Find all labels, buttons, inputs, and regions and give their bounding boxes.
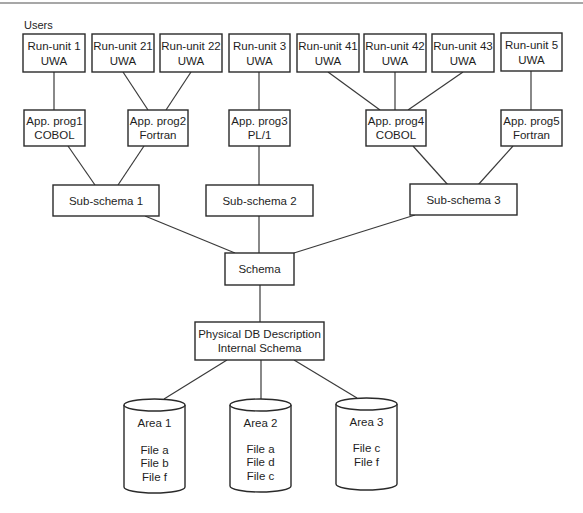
run-unit-label: Run-unit 21 bbox=[93, 40, 152, 52]
link-ap2-ss1 bbox=[118, 146, 144, 185]
area-label: Area 3 bbox=[350, 416, 384, 428]
app-prog-language: Fortran bbox=[139, 129, 176, 141]
run-unit-uwa: UWA bbox=[246, 55, 273, 67]
dbms-architecture-diagram: Users Run-unit 1 UWA Run-unit 21 UWA Run… bbox=[0, 0, 583, 513]
app-prog-label: App. prog3 bbox=[231, 115, 287, 127]
link-ss1-schema bbox=[145, 216, 235, 253]
run-unit-uwa: UWA bbox=[110, 55, 137, 67]
app-prog-label: App. prog5 bbox=[503, 115, 559, 127]
run-unit-label: Run-unit 41 bbox=[298, 40, 357, 52]
area-cylinder: Area 2 File a File d File c bbox=[230, 399, 291, 492]
app-prog-language: PL/1 bbox=[248, 129, 272, 141]
run-unit-box: Run-unit 21 UWA bbox=[92, 34, 154, 72]
run-unit-box: Run-unit 5 UWA bbox=[501, 33, 562, 71]
area-3-cylinder-top bbox=[336, 398, 397, 410]
sub-schema-box: Sub-schema 2 bbox=[206, 185, 313, 216]
run-unit-label: Run-unit 42 bbox=[365, 40, 424, 52]
run-unit-uwa: UWA bbox=[178, 55, 205, 67]
schema-box: Schema bbox=[225, 253, 294, 285]
run-unit-label: Run-unit 43 bbox=[433, 40, 492, 52]
run-unit-uwa: UWA bbox=[315, 55, 342, 67]
app-program-box: App. prog5 Fortran bbox=[501, 110, 562, 146]
run-unit-label: Run-unit 1 bbox=[27, 40, 80, 52]
run-unit-label: Run-unit 22 bbox=[161, 40, 220, 52]
link-ap4-ss3 bbox=[413, 146, 448, 185]
run-unit-label: Run-unit 3 bbox=[233, 40, 286, 52]
run-unit-uwa: UWA bbox=[518, 54, 545, 66]
link-ru22-ap2 bbox=[166, 72, 191, 110]
run-unit-uwa: UWA bbox=[41, 55, 68, 67]
area-file: File a bbox=[246, 443, 275, 455]
area-file: File c bbox=[353, 442, 381, 454]
app-prog-label: App. prog1 bbox=[26, 115, 82, 127]
app-program-box: App. prog3 PL/1 bbox=[229, 110, 290, 146]
link-ru41-ap4 bbox=[328, 72, 380, 110]
sub-schema-box: Sub-schema 1 bbox=[53, 185, 159, 216]
sub-schema-label: Sub-schema 3 bbox=[426, 194, 500, 206]
app-program-box: App. prog2 Fortran bbox=[128, 110, 188, 146]
area-file: File f bbox=[354, 456, 380, 468]
app-prog-language: COBOL bbox=[376, 129, 417, 141]
app-program-box: App. prog4 COBOL bbox=[366, 110, 426, 146]
run-unit-uwa: UWA bbox=[450, 55, 477, 67]
area-1-cylinder-top bbox=[124, 399, 185, 411]
area-file: File b bbox=[140, 457, 168, 469]
internal-schema-label: Internal Schema bbox=[218, 342, 302, 354]
link-physical-area1 bbox=[164, 360, 227, 399]
link-ru43-ap4 bbox=[408, 72, 463, 110]
sub-schema-label: Sub-schema 2 bbox=[222, 195, 296, 207]
area-2-cylinder-top bbox=[230, 399, 291, 411]
run-unit-box: Run-unit 3 UWA bbox=[229, 34, 290, 72]
app-program-box: App. prog1 COBOL bbox=[24, 110, 85, 146]
sub-schema-box: Sub-schema 3 bbox=[410, 184, 517, 215]
area-cylinder: Area 3 File c File f bbox=[336, 398, 397, 490]
area-label: Area 2 bbox=[244, 417, 278, 429]
run-unit-box: Run-unit 42 UWA bbox=[364, 34, 426, 72]
run-unit-box: Run-unit 43 UWA bbox=[432, 34, 494, 72]
area-label: Area 1 bbox=[138, 417, 172, 429]
link-physical-area3 bbox=[294, 360, 357, 398]
run-unit-uwa: UWA bbox=[382, 55, 409, 67]
link-ap5-ss3 bbox=[478, 146, 513, 185]
area-file: File a bbox=[140, 444, 169, 456]
area-file: File d bbox=[246, 456, 274, 468]
run-unit-box: Run-unit 1 UWA bbox=[23, 34, 85, 72]
area-cylinder: Area 1 File a File b File f bbox=[124, 399, 185, 493]
link-ru21-ap2 bbox=[123, 72, 148, 110]
app-prog-language: COBOL bbox=[34, 129, 75, 141]
app-prog-label: App. prog2 bbox=[130, 115, 186, 127]
area-file: File c bbox=[247, 470, 275, 482]
physical-db-box: Physical DB Description Internal Schema bbox=[195, 322, 324, 360]
app-prog-language: Fortran bbox=[513, 129, 550, 141]
schema-label: Schema bbox=[238, 263, 281, 275]
sub-schema-label: Sub-schema 1 bbox=[69, 195, 143, 207]
link-ap1-ss1 bbox=[68, 146, 95, 185]
users-label: Users bbox=[24, 19, 53, 31]
run-unit-box: Run-unit 41 UWA bbox=[297, 34, 359, 72]
link-ss3-schema bbox=[294, 215, 415, 253]
run-unit-box: Run-unit 22 UWA bbox=[160, 34, 222, 72]
run-unit-label: Run-unit 5 bbox=[505, 39, 558, 51]
app-prog-label: App. prog4 bbox=[368, 115, 425, 127]
physical-db-label: Physical DB Description bbox=[198, 328, 321, 340]
area-file: File f bbox=[142, 471, 168, 483]
